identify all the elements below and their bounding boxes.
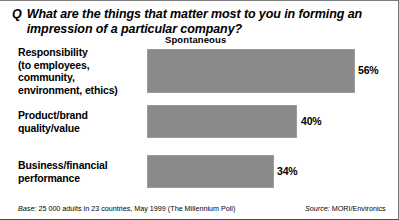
bar-value-label: 40% — [301, 115, 321, 127]
category-label: Responsibility (to employees, community,… — [18, 46, 142, 96]
category-label-line: (to employees, — [18, 59, 142, 72]
footnote-source-label: Source: — [305, 204, 330, 213]
footnote-base-text: 25 000 adults in 23 countries, May 1999 … — [36, 204, 235, 213]
footnote-source-text: MORI/Environics — [330, 204, 386, 213]
category-label-line: quality/value — [18, 122, 142, 135]
chart-frame: Q What are the things that matter most t… — [0, 0, 399, 220]
category-label: Business/financial performance — [18, 159, 142, 184]
category-label-line: Product/brand — [18, 109, 142, 122]
footnote-base-label: Base: — [18, 204, 36, 213]
bar — [147, 105, 297, 138]
bar — [147, 155, 274, 188]
category-label-line: community, — [18, 71, 142, 84]
footnote-base: Base: 25 000 adults in 23 countries, May… — [18, 204, 235, 213]
footnotes: Base: 25 000 adults in 23 countries, May… — [18, 204, 383, 213]
category-label: Product/brand quality/value — [18, 109, 142, 134]
bar-value-label: 56% — [358, 64, 378, 76]
category-label-line: performance — [18, 172, 142, 185]
bar-chart-plot-area: Responsibility (to employees, community,… — [0, 1, 399, 201]
footnote-source: Source: MORI/Environics — [305, 204, 386, 213]
category-label-line: environment, ethics) — [18, 84, 142, 97]
category-label-line: Responsibility — [18, 46, 142, 59]
bar — [147, 49, 355, 93]
category-label-line: Business/financial — [18, 159, 142, 172]
bar-value-label: 34% — [277, 165, 297, 177]
